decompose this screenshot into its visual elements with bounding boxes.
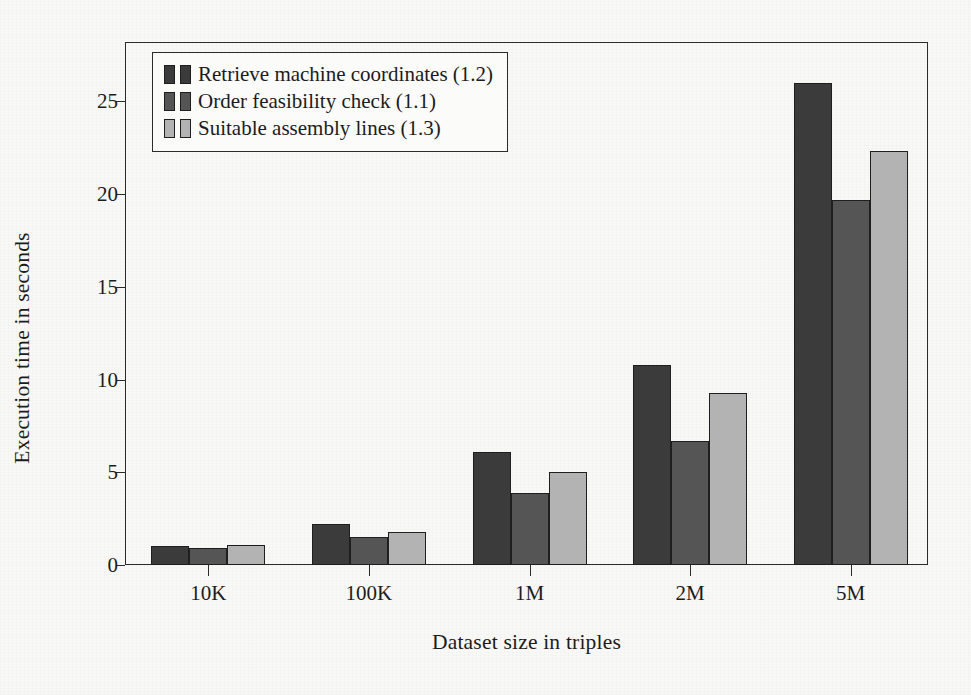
legend-label: Retrieve machine coordinates (1.2) <box>198 64 493 85</box>
legend-item-1: Retrieve machine coordinates (1.2) <box>164 61 493 88</box>
x-tick-mark-5M <box>851 565 852 576</box>
legend-swatch-icon <box>180 119 191 138</box>
bar-1M-series-3 <box>549 472 587 565</box>
bar-chart-figure: Execution time in seconds 0510152025 10K… <box>0 0 971 695</box>
x-tick-mark-10K <box>208 565 209 576</box>
bar-10K-series-2 <box>189 548 227 565</box>
x-tick-label-10K: 10K <box>190 583 226 604</box>
bar-2M-series-3 <box>709 393 747 565</box>
legend-swatch-icon <box>164 119 175 138</box>
bar-10K-series-1 <box>151 546 189 565</box>
legend-swatch-group <box>164 65 191 84</box>
legend-swatch-group <box>164 92 191 111</box>
legend-item-3: Suitable assembly lines (1.3) <box>164 115 493 142</box>
chart-legend: Retrieve machine coordinates (1.2)Order … <box>152 52 508 152</box>
legend-swatch-icon <box>180 92 191 111</box>
x-axis-label: Dataset size in triples <box>125 630 928 655</box>
legend-label: Suitable assembly lines (1.3) <box>198 118 441 139</box>
legend-item-2: Order feasibility check (1.1) <box>164 88 493 115</box>
bar-5M-series-2 <box>832 200 870 565</box>
bar-2M-series-2 <box>671 441 709 565</box>
y-axis-label: Execution time in seconds <box>10 232 35 463</box>
legend-swatch-icon <box>164 65 175 84</box>
y-tick-label: 0 <box>108 555 119 576</box>
y-tick-label: 15 <box>97 276 118 297</box>
x-tick-mark-100K <box>369 565 370 576</box>
legend-swatch-icon <box>164 92 175 111</box>
bar-1M-series-1 <box>473 452 511 565</box>
y-tick-label: 5 <box>108 462 119 483</box>
x-tick-label-2M: 2M <box>676 583 705 604</box>
y-tick-label: 20 <box>97 184 118 205</box>
bar-100K-series-2 <box>350 537 388 565</box>
x-tick-label-100K: 100K <box>346 583 393 604</box>
bar-5M-series-3 <box>870 151 908 565</box>
bar-2M-series-1 <box>633 365 671 565</box>
bar-100K-series-1 <box>312 524 350 565</box>
y-tick-label: 25 <box>97 91 118 112</box>
legend-swatch-group <box>164 119 191 138</box>
x-tick-mark-2M <box>690 565 691 576</box>
bar-5M-series-1 <box>794 83 832 565</box>
bar-1M-series-2 <box>511 493 549 565</box>
bar-100K-series-3 <box>388 532 426 565</box>
bar-10K-series-3 <box>227 545 265 565</box>
y-tick-label: 10 <box>97 369 118 390</box>
legend-label: Order feasibility check (1.1) <box>198 91 436 112</box>
x-tick-label-1M: 1M <box>515 583 544 604</box>
legend-swatch-icon <box>180 65 191 84</box>
x-tick-label-5M: 5M <box>836 583 865 604</box>
x-tick-mark-1M <box>530 565 531 576</box>
